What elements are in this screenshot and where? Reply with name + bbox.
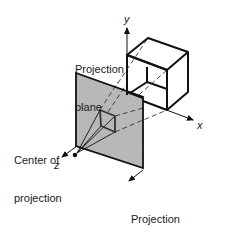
center-of-projection-point — [73, 153, 78, 158]
x-axis-label: x — [197, 119, 203, 131]
plane-normal-arrow — [129, 170, 143, 181]
label-center-of-projection: Center of projection — [14, 129, 62, 217]
label-line: Projection — [75, 63, 124, 76]
label-projection-plane-normal: Projection plane normal — [131, 188, 180, 242]
y-axis-label: y — [124, 13, 130, 25]
z-axis-label: z — [54, 159, 60, 171]
label-line: plane — [75, 101, 124, 114]
label-line: projection — [14, 192, 62, 205]
label-line: Projection — [131, 213, 180, 226]
label-projection-plane: Projection plane — [75, 38, 124, 126]
